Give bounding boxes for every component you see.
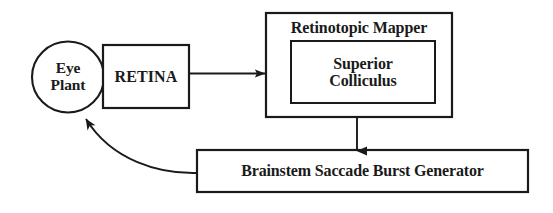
diagram-vector-layer	[0, 0, 553, 213]
retina-node	[103, 45, 189, 108]
diagram-canvas: Eye Plant RETINA Retinotopic Mapper Supe…	[0, 0, 553, 213]
edge-brainstem-to-eye-plant	[86, 119, 197, 173]
eye-plant-node	[32, 42, 104, 113]
brainstem-generator-node	[197, 150, 528, 192]
superior-colliculus-node	[291, 41, 435, 103]
